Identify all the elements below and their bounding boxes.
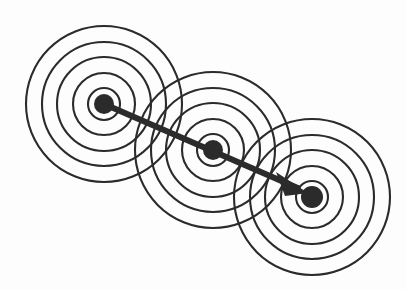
diagram-canvas	[0, 0, 406, 290]
filled-circle-icon	[203, 140, 223, 160]
wave-propagation-figure	[0, 0, 406, 290]
filled-circle-icon	[94, 94, 114, 114]
filled-circle-icon	[301, 186, 323, 208]
